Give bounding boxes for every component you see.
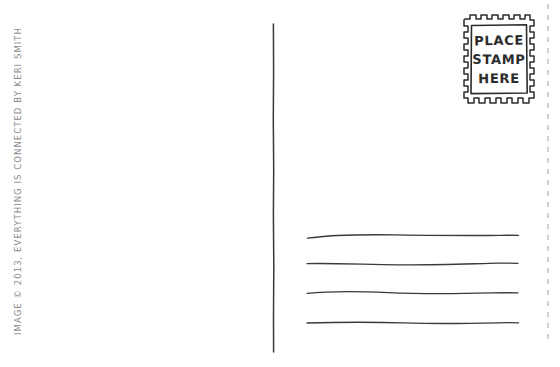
address-line-1 xyxy=(308,235,519,238)
address-line-2 xyxy=(307,263,518,265)
credit-text: IMAGE © 2013, EVERYTHING IS CONNECTED BY… xyxy=(13,35,23,335)
stamp-outline-icon xyxy=(458,9,540,110)
center-divider xyxy=(264,16,284,360)
place-stamp-here-box: PLACE STAMP HERE xyxy=(458,9,540,110)
scan-edge-dashes xyxy=(547,4,549,344)
address-writing-lines xyxy=(300,225,528,335)
address-line-3 xyxy=(307,292,518,294)
address-line-4 xyxy=(307,322,519,323)
postcard-canvas: IMAGE © 2013, EVERYTHING IS CONNECTED BY… xyxy=(0,0,560,367)
